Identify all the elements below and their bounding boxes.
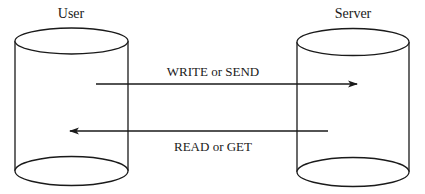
user-label: User (58, 6, 85, 21)
read-label: READ or GET (174, 139, 252, 154)
user-cylinder (15, 28, 128, 186)
client-server-diagram: User Server WRITE or SEND READ or GET (0, 0, 425, 194)
server-label: Server (335, 6, 372, 21)
write-label: WRITE or SEND (167, 64, 259, 79)
server-cylinder (297, 29, 409, 187)
